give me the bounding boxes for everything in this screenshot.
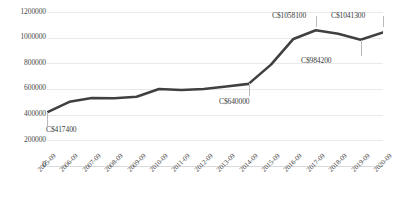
x-axis: 2005-092006-092007-092008-092009-092010-…	[47, 168, 383, 212]
y-axis: 1200000 1000000 800000 600000 400000 200…	[0, 0, 46, 212]
data-label-2019: C$984200	[301, 57, 331, 65]
leader-line	[316, 16, 317, 27]
leader-line	[249, 83, 250, 96]
y-tick-label: 1200000	[2, 8, 46, 16]
y-tick-label: 200000	[2, 136, 46, 144]
series-line	[47, 12, 383, 166]
y-tick-label: 600000	[2, 84, 46, 92]
y-tick-label: 800000	[2, 59, 46, 67]
leader-line	[383, 16, 384, 27]
data-label-2020: C$1041300	[331, 12, 365, 20]
data-label-2005: C$417400	[46, 126, 76, 134]
y-tick-label: 400000	[2, 110, 46, 118]
leader-line	[47, 112, 48, 126]
leader-line	[361, 40, 362, 56]
plot-area	[47, 12, 383, 166]
data-label-2017: C$1058100	[272, 12, 306, 20]
y-tick-label: 1000000	[2, 33, 46, 41]
data-label-2014: C$640000	[219, 98, 249, 106]
